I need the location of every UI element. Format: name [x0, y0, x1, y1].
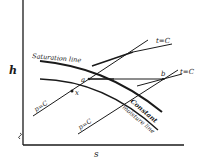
temperature-line-2-superheat — [137, 74, 182, 86]
point-a — [88, 78, 91, 81]
temperature-line-2-label: t=C — [180, 68, 195, 76]
point-b-label: b — [161, 70, 166, 78]
axis-break-mark — [19, 133, 22, 139]
point-b — [162, 78, 164, 80]
x-axis-label: s — [94, 149, 99, 159]
point-x-label: x — [75, 89, 79, 97]
point-a-label: a — [81, 76, 85, 84]
mollier-diagram: h s Saturation line a x b t=C t=C p=C p=… — [0, 0, 204, 161]
saturation-line — [40, 61, 162, 112]
point-x — [71, 90, 74, 93]
pressure-line-1-label: p=C — [33, 99, 50, 114]
temperature-line-1-label: t=C — [156, 37, 171, 45]
y-axis-label: h — [9, 64, 17, 77]
temperature-line-1 — [133, 44, 172, 52]
